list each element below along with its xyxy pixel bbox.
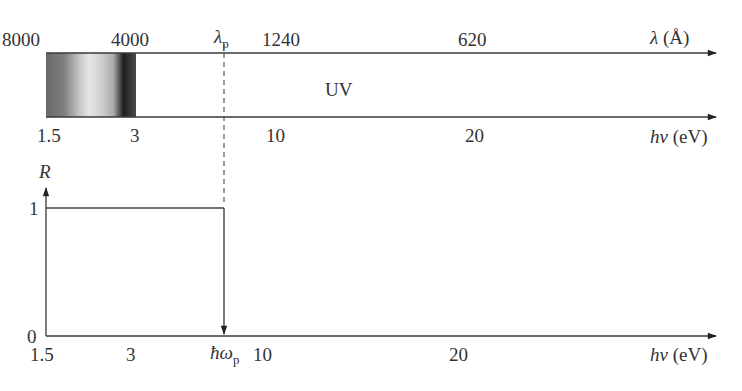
diagram-canvas: [0, 0, 742, 391]
plasma-energy-subscript: p: [233, 352, 240, 367]
wavelength-tick-4000: 4000: [111, 30, 149, 49]
visible-spectrum-band: [46, 53, 136, 117]
plasma-subscript: p: [222, 36, 229, 51]
bottom-energy-tick-20: 20: [449, 345, 468, 364]
hnu-symbol: hν: [650, 126, 668, 147]
r-axis-label: R: [39, 162, 51, 181]
energy-axis-label-top: hν (eV): [650, 127, 708, 146]
energy-axis-label-bottom: hν (eV): [650, 345, 708, 364]
wavelength-tick-620: 620: [458, 30, 487, 49]
lambda-symbol: λ: [214, 26, 222, 47]
hnu-symbol-bottom: hν: [650, 344, 668, 365]
wavelength-axis-label: λ (Å): [650, 28, 689, 47]
bottom-energy-tick-1.5: 1.5: [30, 345, 54, 364]
r-tick-1: 1: [29, 199, 39, 218]
lambda-axis-symbol: λ: [650, 27, 658, 48]
uv-region-label: UV: [325, 80, 352, 99]
bottom-energy-tick-3: 3: [126, 345, 136, 364]
energy-tick-10: 10: [266, 126, 285, 145]
energy-tick-3: 3: [130, 126, 140, 145]
wavelength-unit: (Å): [663, 27, 689, 48]
energy-tick-20: 20: [465, 126, 484, 145]
energy-unit-bottom: (eV): [673, 344, 708, 365]
hbar-omega-symbol: ħω: [210, 342, 233, 363]
plasma-wavelength-label: λp: [214, 27, 229, 46]
plasma-energy-label: ħωp: [210, 343, 239, 362]
wavelength-tick-1240: 1240: [262, 30, 300, 49]
energy-unit: (eV): [673, 126, 708, 147]
wavelength-tick-8000: 8000: [2, 30, 40, 49]
energy-tick-1.5: 1.5: [37, 126, 61, 145]
bottom-energy-tick-10: 10: [253, 345, 272, 364]
